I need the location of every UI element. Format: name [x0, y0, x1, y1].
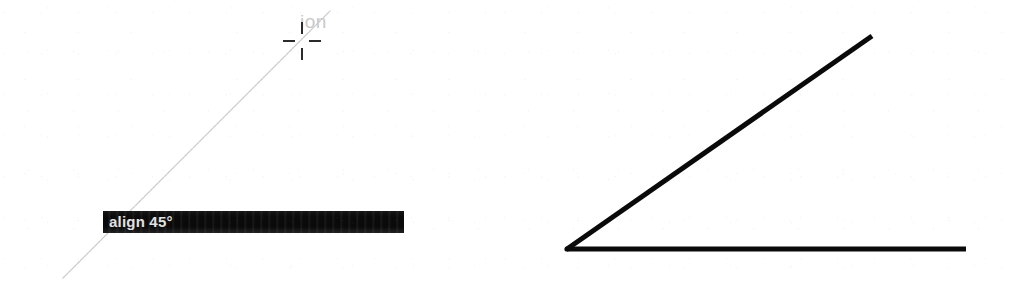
- crosshair-cursor-icon[interactable]: [283, 22, 321, 60]
- angle-vertex: [564, 246, 569, 251]
- angle-drawing-layer: [500, 0, 1014, 284]
- resulting-angle-panel: [500, 0, 1014, 284]
- crosshair-arm-right: [309, 40, 321, 42]
- align-45-tooltip-panel: ion align 45°: [0, 0, 500, 284]
- align-tooltip-label: align 45°: [109, 212, 173, 231]
- figure-canvas: ion align 45°: [0, 0, 1014, 284]
- crosshair-arm-down: [301, 48, 303, 60]
- crosshair-arm-left: [283, 40, 295, 42]
- crosshair-arm-up: [301, 22, 303, 34]
- align-tooltip: align 45°: [103, 211, 404, 233]
- angled-ray-segment: [567, 36, 872, 249]
- guide-line-layer: [0, 0, 500, 284]
